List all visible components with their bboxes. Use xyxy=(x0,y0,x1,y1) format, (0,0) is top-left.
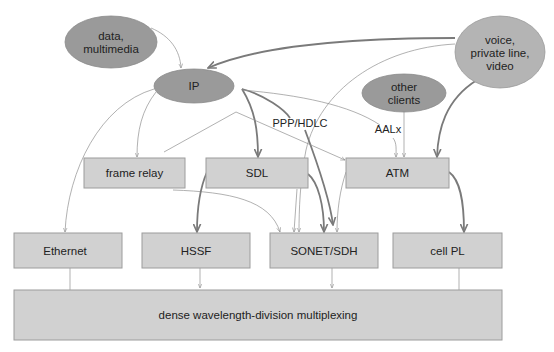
node-sonet-sdh: SONET/SDH xyxy=(270,233,378,268)
node-label-line: data, xyxy=(98,30,124,42)
node-frame-relay: frame relay xyxy=(84,158,185,188)
node-label: frame relay xyxy=(106,167,164,179)
edge-ip-to-sdl xyxy=(242,89,258,157)
node-label-line: multimedia xyxy=(83,43,139,55)
node-data-multimedia: data, multimedia xyxy=(65,16,157,68)
edge-sdl-to-sonet-thin xyxy=(294,189,297,232)
node-voice-private-line-video: voice, private line, video xyxy=(455,16,545,88)
node-ip: IP xyxy=(154,69,234,103)
node-hssf: HSSF xyxy=(142,233,250,268)
edge-ip-to-framerelay xyxy=(137,92,156,157)
node-dwdm: dense wavelength-division multiplexing xyxy=(14,290,502,340)
node-label: HSSF xyxy=(181,245,212,257)
node-label-line: IP xyxy=(189,80,200,92)
node-label: dense wavelength-division multiplexing xyxy=(159,309,358,321)
node-label: ATM xyxy=(386,167,409,179)
edge-atm-to-sonet xyxy=(337,172,346,232)
protocol-stack-diagram: PPP/HDLC AALx data, multimedia IP voice,… xyxy=(0,0,554,352)
node-label-line: voice, xyxy=(485,34,515,46)
node-label: SONET/SDH xyxy=(290,245,357,257)
edge-sdl-to-sonet xyxy=(308,174,324,232)
edge-aalx-to-atm xyxy=(393,138,396,157)
node-sdl: SDL xyxy=(206,158,308,188)
edge-label-aalx: AALx xyxy=(375,123,402,135)
node-label: SDL xyxy=(246,167,269,179)
node-atm: ATM xyxy=(346,158,449,188)
node-ethernet: Ethernet xyxy=(14,233,122,268)
edge-voice-to-ip xyxy=(208,38,455,68)
node-label-line: other xyxy=(391,81,417,93)
edge-framerelay-to-sonet xyxy=(173,190,280,232)
node-label-line: clients xyxy=(388,94,421,106)
edge-atm-to-cellpl xyxy=(449,172,464,232)
node-label: Ethernet xyxy=(43,245,87,257)
node-other-clients: other clients xyxy=(362,74,446,112)
edge-label-ppp-hdlc: PPP/HDLC xyxy=(272,117,327,129)
node-label-line: private line, xyxy=(471,47,530,59)
node-cell-pl: cell PL xyxy=(393,233,502,268)
node-label-line: video xyxy=(486,60,514,72)
node-label: cell PL xyxy=(430,245,465,257)
